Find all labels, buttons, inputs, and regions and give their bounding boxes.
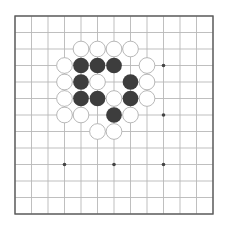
white-stone	[73, 41, 89, 57]
white-stone	[90, 74, 106, 90]
star-point	[162, 113, 166, 117]
black-stone	[106, 58, 122, 74]
black-stone	[90, 58, 106, 74]
white-stone	[139, 58, 155, 74]
white-stone	[57, 91, 73, 107]
star-point	[63, 163, 67, 167]
white-stone	[123, 107, 139, 123]
white-stone	[57, 58, 73, 74]
go-board[interactable]	[0, 0, 227, 227]
white-stone	[139, 91, 155, 107]
black-stone	[90, 91, 106, 107]
white-stone	[123, 41, 139, 57]
white-stone	[139, 74, 155, 90]
white-stone	[106, 91, 122, 107]
black-stone	[106, 107, 122, 123]
black-stone	[73, 58, 89, 74]
black-stone	[73, 74, 89, 90]
white-stone	[106, 41, 122, 57]
star-point	[162, 163, 166, 167]
white-stone	[57, 74, 73, 90]
star-point	[112, 163, 116, 167]
board-canvas[interactable]	[0, 0, 227, 227]
white-stone	[73, 107, 89, 123]
white-stone	[90, 41, 106, 57]
star-point	[162, 64, 166, 68]
white-stone	[57, 107, 73, 123]
black-stone	[123, 91, 139, 107]
black-stone	[73, 91, 89, 107]
white-stone	[90, 124, 106, 140]
white-stone	[106, 124, 122, 140]
black-stone	[123, 74, 139, 90]
